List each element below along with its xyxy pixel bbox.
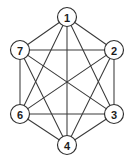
- graph-node-4: 4: [58, 136, 77, 155]
- graph-diagram: 123467: [0, 0, 134, 159]
- node-label-6: 6: [17, 109, 23, 121]
- node-label-3: 3: [111, 109, 117, 121]
- graph-node-6: 6: [11, 105, 30, 124]
- graph-edge-4-6: [28, 119, 59, 140]
- graph-edge-1-7: [28, 22, 59, 44]
- graph-node-1: 1: [58, 8, 77, 27]
- graph-node-2: 2: [105, 41, 124, 60]
- node-label-1: 1: [64, 12, 70, 24]
- node-label-4: 4: [64, 140, 71, 152]
- graph-edge-1-2: [75, 22, 106, 44]
- graph-node-3: 3: [105, 105, 124, 124]
- edge-layer: [20, 22, 114, 139]
- graph-canvas: 123467: [0, 0, 134, 159]
- node-label-2: 2: [111, 45, 117, 57]
- graph-edge-4-7: [24, 59, 63, 137]
- graph-edge-3-4: [75, 119, 106, 140]
- graph-node-7: 7: [11, 41, 30, 60]
- node-label-7: 7: [17, 45, 23, 57]
